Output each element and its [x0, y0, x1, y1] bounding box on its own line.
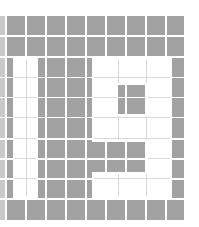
grid-tile — [0, 160, 5, 178]
grid-tile — [67, 118, 85, 138]
cutout-seam — [148, 158, 170, 159]
grid-tile — [67, 37, 85, 56]
cutout-seam — [118, 116, 119, 140]
grid-tile — [0, 37, 5, 56]
cutout-right-top-bar — [92, 58, 172, 85]
grid-tile — [47, 37, 65, 56]
cutout-seam — [26, 60, 27, 196]
cutout-right-right-stem-upper — [146, 85, 172, 114]
grid-tile — [47, 180, 65, 198]
grid-tile — [167, 200, 184, 220]
cutout-seam — [94, 138, 170, 139]
grid-tile — [47, 98, 65, 117]
grid-tile — [0, 58, 5, 77]
grid-tile — [147, 37, 165, 56]
grid-tile — [7, 37, 25, 56]
cutout-seam — [146, 174, 147, 196]
grid-tile — [0, 118, 5, 138]
cutout-seam — [94, 178, 170, 179]
grid-tile — [7, 200, 25, 220]
grid-tile — [7, 16, 25, 35]
cutout-seam — [94, 97, 116, 98]
grid-tile — [0, 78, 5, 97]
grid-tile — [67, 98, 85, 117]
cutout-right-left-stem-upper — [92, 85, 118, 114]
tile-pattern-canvas — [0, 0, 199, 227]
grid-tile — [87, 16, 105, 35]
cutout-right-bottom-bar — [92, 172, 172, 198]
grid-tile — [27, 16, 45, 35]
grid-tile — [67, 16, 85, 35]
grid-tile — [87, 140, 105, 158]
grid-tile — [67, 180, 85, 198]
grid-tile — [167, 16, 184, 35]
grid-tile — [107, 200, 125, 220]
cutout-seam — [148, 97, 170, 98]
grid-tile — [127, 200, 145, 220]
grid-tile — [127, 140, 145, 158]
grid-tile — [47, 58, 65, 77]
grid-tile — [27, 200, 45, 220]
grid-tile — [67, 58, 85, 77]
grid-tile — [147, 16, 165, 35]
grid-tile — [127, 37, 145, 56]
grid-tile — [67, 78, 85, 97]
grid-tile — [67, 200, 85, 220]
grid-tile — [0, 180, 5, 198]
cutout-seam — [146, 60, 147, 83]
grid-tile — [0, 98, 5, 117]
cutout-right-right-stem-lower — [146, 142, 172, 172]
grid-tile — [47, 200, 65, 220]
cutout-seam — [94, 117, 170, 118]
grid-tile — [167, 37, 184, 56]
grid-tile — [147, 200, 165, 220]
grid-tile — [0, 16, 5, 35]
grid-tile — [27, 37, 45, 56]
cutout-seam — [94, 77, 170, 78]
grid-tile — [47, 78, 65, 97]
grid-tile — [0, 200, 5, 220]
grid-tile — [107, 16, 125, 35]
grid-tile — [47, 160, 65, 178]
grid-tile — [127, 16, 145, 35]
grid-tile — [107, 37, 125, 56]
grid-tile — [67, 160, 85, 178]
cutout-seam — [118, 60, 119, 83]
grid-tile — [47, 118, 65, 138]
grid-tile — [67, 140, 85, 158]
grid-tile — [107, 140, 125, 158]
grid-tile — [47, 140, 65, 158]
cutout-seam — [146, 116, 147, 140]
grid-tile — [0, 140, 5, 158]
cutout-seam — [118, 174, 119, 196]
grid-tile — [47, 16, 65, 35]
grid-tile — [87, 37, 105, 56]
grid-tile — [87, 200, 105, 220]
